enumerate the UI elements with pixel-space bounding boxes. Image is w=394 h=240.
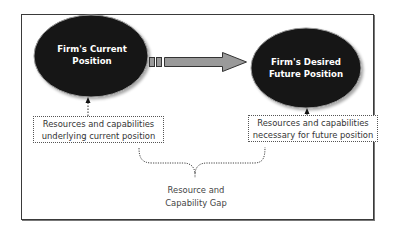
current-position-label: Firm's Current Position <box>48 43 136 67</box>
current-connector <box>86 97 91 116</box>
current-resources-box: Resources and capabilities underlying cu… <box>33 116 164 143</box>
progression-arrow <box>150 53 247 72</box>
capability-gap-label: Resource and Capability Gap <box>156 184 236 210</box>
gap-bracket <box>139 147 265 178</box>
future-position-label: Firm's Desired Future Position <box>262 56 350 80</box>
future-resources-box: Resources and capabilities necessary for… <box>248 115 378 142</box>
future-connector <box>305 108 310 115</box>
